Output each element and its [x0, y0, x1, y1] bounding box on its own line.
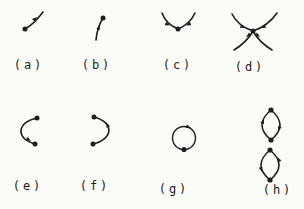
panel-g-drawing — [173, 124, 196, 152]
bottom-loop-arrowhead-left — [259, 167, 263, 172]
panel-e-drawing — [21, 116, 40, 147]
arc-curve — [93, 117, 109, 144]
fixed-point-dot — [23, 27, 28, 32]
bottom-loop-right-arc — [270, 150, 279, 180]
trajectory-curve-right — [178, 13, 195, 29]
arrowhead — [96, 25, 100, 30]
panel-f-drawing — [91, 115, 111, 147]
panel-a-drawing — [23, 12, 44, 32]
fixed-point-dot — [181, 147, 186, 152]
top-loop-dot-top — [268, 107, 273, 112]
trajectory-curve-left — [162, 13, 178, 29]
trajectory-curve-top-right — [253, 13, 277, 31]
panel-a-label: (a) — [14, 58, 45, 72]
trajectory-curve-bottom-right — [253, 31, 272, 50]
panel-d-label: (d) — [235, 60, 266, 74]
panel-d-drawing — [232, 13, 277, 50]
bottom-loop-arrowhead-right — [278, 157, 282, 162]
phase-portrait-figure: (a) (b) (c) (d) (e) (f) (g) (h) — [0, 0, 304, 209]
fixed-point-dot-bottom — [91, 142, 96, 147]
fixed-point-dot — [101, 16, 106, 21]
arrowhead — [186, 124, 191, 128]
trajectory-curve-top-left — [232, 14, 253, 31]
trajectory-curve-bottom-left — [234, 31, 253, 50]
panel-h-label: (h) — [263, 183, 294, 197]
diagrams-svg — [0, 0, 304, 209]
panel-c-label: (c) — [163, 58, 194, 72]
panel-f-label: (f) — [80, 179, 111, 193]
top-loop-dot-bottom — [268, 137, 273, 142]
panel-b-drawing — [96, 16, 106, 41]
bottom-loop-dot-bottom — [267, 177, 272, 182]
bottom-loop-left-arc — [261, 150, 270, 180]
fixed-point-dot — [251, 29, 256, 34]
panel-h-drawing — [259, 107, 282, 182]
top-loop-right-arc — [271, 110, 280, 140]
panel-b-label: (b) — [82, 58, 113, 72]
panel-c-drawing — [162, 13, 195, 32]
panel-g-label: (g) — [159, 182, 190, 196]
fixed-point-dot-bottom — [33, 142, 38, 147]
panel-e-label: (e) — [13, 179, 44, 193]
fixed-point-dot — [176, 27, 181, 32]
bottom-loop-dot-top — [267, 147, 272, 152]
fixed-point-dot-top — [35, 116, 40, 121]
top-loop-arrowhead-left — [260, 119, 264, 124]
fixed-point-dot-top — [92, 115, 97, 120]
top-loop-arrowhead-right — [278, 126, 282, 131]
orbit-circle — [173, 127, 196, 150]
top-loop-left-arc — [262, 110, 271, 140]
